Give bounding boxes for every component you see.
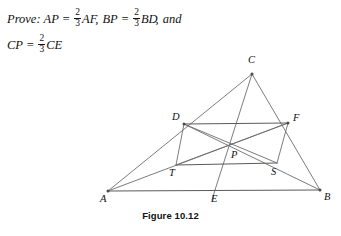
point-label-f: F [292,112,300,123]
equals-sign-1: = [62,7,70,31]
geo-segment-midsegment-DF [184,123,288,124]
figure-page: Prove:AP=23AF,BP=23BD,and CP=23CE ABCDFE… [0,0,341,236]
fraction-numerator: 2 [133,8,140,18]
fraction-numerator: 2 [74,8,81,18]
geo-segment-side-BC [252,74,320,190]
fraction-two-thirds-1: 23 [74,8,81,28]
geo-segment-segment-FS [277,123,288,163]
geo-segment-segment-TS [176,163,277,165]
figure-caption: Figure 10.12 [0,210,341,221]
prove-line-1: Prove:AP=23AF,BP=23BD,and [7,6,327,30]
vertex-dots-layer [107,73,322,193]
vertex-dot-c [251,73,254,76]
separator-comma-2: , [156,7,159,31]
fraction-numerator: 2 [38,34,45,44]
vertex-dot-f [287,122,290,125]
prove-lead-label: Prove: [7,7,41,31]
point-label-a: A [99,193,107,204]
point-label-b: B [324,191,331,202]
vertex-dot-d [183,123,186,126]
geo-segment-median-BD [184,124,320,190]
point-label-s: S [271,166,277,177]
expr-AP: AP [44,7,59,31]
separator-comma-1: , [95,7,98,31]
geo-segment-side-AC [108,74,252,191]
word-and: and [163,7,182,31]
geo-segment-segment-DT [176,124,184,165]
point-label-e: E [210,193,218,204]
geo-segment-side-AB [108,190,320,191]
point-label-p: P [230,149,238,160]
vertex-dot-a [107,190,110,193]
vertex-dot-b [319,189,322,192]
fraction-denominator: 3 [74,18,81,29]
equals-sign-2: = [121,7,129,31]
point-label-c: C [248,54,256,65]
fraction-denominator: 3 [133,18,140,29]
fraction-two-thirds-2: 23 [133,8,140,28]
point-label-t: T [169,167,176,178]
segments-layer [108,74,320,191]
geo-segment-median-CE [215,74,252,190]
expr-BP: BP [102,7,117,31]
geometry-figure: ABCDFEPTS [0,48,341,208]
point-label-d: D [171,111,180,122]
